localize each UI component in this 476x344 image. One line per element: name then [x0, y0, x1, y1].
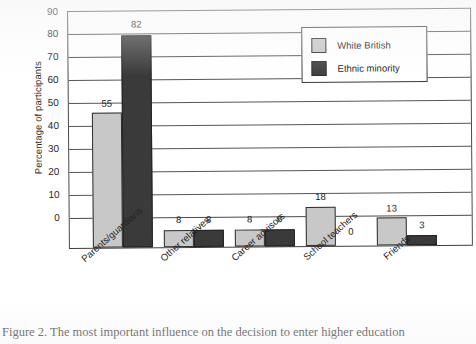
figure-caption: Figure 2. The most important influence o…: [2, 325, 476, 340]
value-label-ethnic-minority-friends: 3: [402, 219, 442, 230]
legend-item-white-british[interactable]: White British: [311, 35, 390, 54]
value-label-white-british-parents-guardians: 55: [87, 97, 127, 108]
legend-swatch-icon: [311, 37, 326, 52]
figure-container: Percentage of participants 90 80 70 60 5…: [0, 0, 476, 344]
y-tick-label: 40: [33, 120, 59, 131]
legend-label: White British: [337, 39, 390, 50]
y-tick-label: 10: [33, 189, 59, 200]
y-tick-label: 20: [33, 166, 59, 177]
bar-chart: Percentage of participants 90 80 70 60 5…: [0, 0, 476, 315]
legend-swatch-icon: [311, 60, 326, 75]
y-tick-label: 30: [33, 143, 59, 154]
y-tick-label: 80: [32, 28, 58, 39]
chart-legend: White British Ethnic minority: [301, 26, 427, 83]
y-tick-label: 0: [34, 212, 60, 223]
y-tick-label: 50: [33, 97, 59, 108]
y-tick-label: 70: [32, 51, 58, 62]
value-label-white-british-friends: 13: [372, 202, 412, 213]
legend-label: Ethnic minority: [337, 62, 399, 73]
y-tick-label: 60: [33, 74, 59, 85]
value-label-ethnic-minority-parents-guardians: 82: [116, 18, 156, 29]
value-label-white-british-school-teachers: 18: [300, 191, 340, 202]
legend-item-ethnic-minority[interactable]: Ethnic minority: [311, 58, 399, 77]
y-tick-label: 90: [32, 6, 58, 17]
